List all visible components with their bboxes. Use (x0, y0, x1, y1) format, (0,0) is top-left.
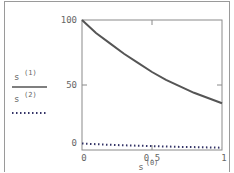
x-axis-label-sup: (0) (146, 159, 159, 167)
legend-s2-sup: (2) (24, 91, 37, 99)
plot-area (82, 20, 222, 150)
legend-s1-label: s (14, 72, 19, 82)
legend-s1-sup: (1) (24, 69, 37, 77)
series-s1-line (82, 20, 222, 103)
legend-s2-label: s (14, 94, 19, 104)
chart-svg: 100 50 0 0 0.5 1 s (0) s (1) s (2) (0, 0, 234, 173)
y-tick-label-100: 100 (61, 15, 77, 25)
y-tick-label-50: 50 (66, 80, 77, 90)
x-tick-label-1: 1 (221, 153, 226, 163)
x-axis-label: s (138, 162, 143, 172)
y-tick-label-0: 0 (72, 138, 77, 148)
x-tick-label-0: 0 (81, 153, 86, 163)
